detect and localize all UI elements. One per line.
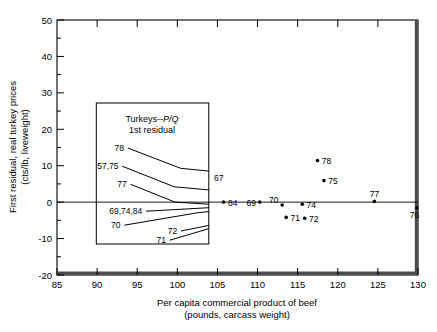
point-label: 76 [410, 210, 420, 220]
point-label: 75 [328, 176, 338, 186]
point-label: 72 [309, 214, 319, 224]
point-marker [322, 179, 326, 183]
x-axis-title-line2: (pounds, carcass weight) [184, 309, 290, 320]
x-tick-label: 90 [92, 279, 103, 290]
data-point: 78 [316, 156, 332, 166]
x-tick-label: 105 [210, 279, 226, 290]
annotation-label: 67 [214, 173, 224, 183]
inset-series-line [131, 184, 209, 204]
x-tick-label: 120 [330, 279, 346, 290]
data-point: 70 [269, 195, 284, 207]
data-point: 74 [301, 200, 317, 210]
data-point: 71 [284, 213, 300, 223]
point-label: 84 [228, 198, 238, 208]
y-tick-label: 30 [41, 87, 52, 98]
inset-series-label: 69,74,84 [109, 206, 142, 216]
x-axis-ticks [57, 20, 418, 275]
inset-series-label: 72 [168, 226, 178, 236]
inset-series-group [122, 148, 209, 240]
x-tick-label: 130 [410, 279, 426, 290]
y-tick-label: 50 [41, 15, 52, 26]
y-tick-labels: 50 40 30 20 10 0 -10 -20 [38, 15, 52, 281]
point-marker [280, 203, 284, 207]
plot-frame [57, 20, 418, 275]
inset-title-line1: Turkeys--P/Q [125, 114, 178, 124]
y-tick-label: 0 [47, 197, 52, 208]
data-point: 84 [222, 198, 238, 208]
point-marker [258, 200, 262, 204]
x-tick-label: 115 [290, 279, 305, 290]
point-label: 71 [291, 213, 301, 223]
inset-title-plain: Turkeys-- [125, 114, 163, 124]
inset-title-line2: 1st residual [129, 125, 175, 135]
y-tick-label: 20 [41, 124, 52, 135]
point-label: 74 [307, 200, 317, 210]
data-point: 76 [410, 206, 420, 219]
point-marker [316, 159, 320, 163]
point-marker [301, 203, 305, 207]
y-tick-label: -20 [38, 270, 52, 281]
y-axis-title-line1: First residual, real turkey prices [7, 81, 18, 213]
point-marker [284, 216, 288, 220]
inset-series-label: 57,75 [97, 161, 119, 171]
chart-svg: 50 40 30 20 10 0 -10 -20 [0, 0, 437, 332]
x-tick-label: 85 [52, 279, 63, 290]
x-axis-title-line1: Per capita commercial product of beef [157, 297, 317, 308]
point-marker [373, 200, 377, 204]
data-point: 69 [247, 198, 262, 208]
inset-title-italic: P/Q [163, 114, 179, 124]
inset-panel: Turkeys--P/Q 1st residual 78 57,75 77 69… [96, 103, 209, 245]
data-point: 77 [370, 189, 380, 204]
inset-series-labels: 78 57,75 77 69,74,84 70 72 71 [97, 143, 177, 245]
y-axis-title: First residual, real turkey prices (cts/… [7, 81, 30, 213]
chart-figure: 50 40 30 20 10 0 -10 -20 [0, 0, 437, 332]
scatter-points: 84 69 70 71 74 [222, 156, 420, 224]
x-tick-label: 125 [370, 279, 386, 290]
x-tick-label: 100 [169, 279, 185, 290]
point-marker [303, 216, 307, 220]
y-tick-label: 10 [41, 160, 52, 171]
axis-hatch-band [58, 21, 418, 275]
y-axis-title-line2: (cts/lb, liveweight) [19, 109, 30, 185]
y-tick-label: 40 [41, 51, 52, 62]
inset-series-label: 78 [115, 143, 125, 153]
point-label: 77 [370, 189, 380, 199]
point-label: 70 [269, 195, 279, 205]
point-label: 69 [247, 198, 257, 208]
data-point: 72 [303, 214, 319, 224]
x-tick-labels: 85 90 95 100 105 110 115 120 125 130 [52, 279, 426, 290]
annotation-group: 67 [214, 173, 224, 183]
inset-series-line [146, 208, 209, 212]
inset-series-label: 77 [117, 179, 127, 189]
data-point: 75 [322, 176, 338, 186]
x-tick-label: 110 [250, 279, 265, 290]
point-label: 78 [322, 156, 332, 166]
inset-series-label: 71 [157, 235, 167, 245]
x-tick-label: 95 [132, 279, 143, 290]
y-tick-label: -10 [38, 233, 52, 244]
x-axis-title: Per capita commercial product of beef (p… [157, 297, 317, 320]
inset-series-label: 70 [111, 220, 121, 230]
inset-series-line [128, 148, 209, 171]
y-axis-ticks [57, 20, 64, 275]
point-marker [222, 200, 226, 204]
